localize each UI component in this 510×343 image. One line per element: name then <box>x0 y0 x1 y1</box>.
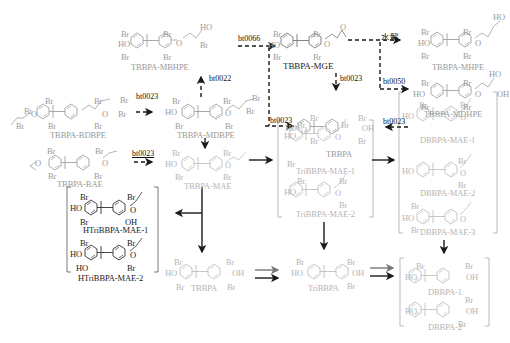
atom-o: O <box>460 215 466 224</box>
compound-label-tbbpa-mhpe: TBBPA-MHPE <box>432 63 484 72</box>
atom-ho: HO <box>200 23 212 32</box>
atom-br: Br <box>176 283 184 292</box>
atom-br: Br <box>200 41 208 50</box>
atom-br: Br <box>339 177 347 186</box>
atom-ho: HO <box>493 13 505 22</box>
atom-oh: OH <box>362 124 374 133</box>
atom-o: O <box>130 206 136 215</box>
compound-label-dbbpa-mae-3: DBBPA-MAE-3 <box>420 228 475 237</box>
atom-br: Br <box>310 114 318 123</box>
atom-br: Br <box>313 30 321 39</box>
enzyme-label-mdhpe-to-tbbpa: bt0023 <box>383 118 405 126</box>
atom-ho: HO <box>284 188 296 197</box>
atom-ho: HO <box>118 40 130 49</box>
atom-br: Br <box>421 79 429 88</box>
atom-br: Br <box>246 107 254 116</box>
pathway-diagram: TBBPA-MBHPE TBBPA-MGE TBBPA-MHPE TBBPA-M… <box>0 0 510 343</box>
atom-o: O <box>31 110 37 119</box>
atom-o: O <box>460 169 466 178</box>
atom-br: Br <box>273 53 281 62</box>
atom-br: Br <box>223 97 231 106</box>
atom-o: O <box>176 39 182 48</box>
atom-br: Br <box>297 177 305 186</box>
atom-br: Br <box>226 258 234 267</box>
atom-o: O <box>225 109 231 118</box>
enzyme-label-mdbpe-to-mge: bt0066 <box>238 35 260 43</box>
atom-o: O <box>324 40 330 49</box>
compound-label-tbbpa-bdbpe: TBBPA-BDBPE <box>50 131 106 140</box>
atom-o: O <box>130 251 136 260</box>
atom-oh: OH <box>466 307 478 316</box>
enzyme-label-bae-to-mae: bt0023 <box>132 150 154 158</box>
atom-o: O <box>102 110 108 119</box>
compound-label-tbbpa-mae: TBBPA-MAE <box>184 182 231 191</box>
atom-br: Br <box>223 173 231 182</box>
atom-ho: HO <box>291 269 303 278</box>
atom-ho: HO <box>402 167 414 176</box>
atom-ho: HO <box>268 41 280 50</box>
atom-br: Br <box>465 296 473 305</box>
enzyme-label-mge-to-mdhpe: bt0050 <box>383 78 405 86</box>
atom-br: Br <box>310 137 318 146</box>
atom-ho: HO <box>165 160 177 169</box>
atom-br: Br <box>313 53 321 62</box>
atom-br: Br <box>421 52 429 61</box>
atom-o: O <box>35 159 41 168</box>
atom-br: Br <box>172 97 180 106</box>
atom-o: O <box>340 23 346 32</box>
atom-br: Br <box>127 193 135 202</box>
atom-br: Br <box>411 226 419 235</box>
atom-ho: HO <box>70 204 82 213</box>
compound-label-dbbpa-mae-1: DBBPA-MAE-1 <box>420 136 475 145</box>
atom-br: Br <box>411 202 419 211</box>
atom-oh: OH <box>352 269 364 278</box>
atom-br: Br <box>297 121 305 130</box>
atom-br: Br <box>121 30 129 39</box>
atom-o: O <box>475 39 481 48</box>
atom-br: Br <box>94 97 102 106</box>
atom-br: Br <box>121 53 129 62</box>
atom-oh: OH <box>232 269 244 278</box>
atom-br: Br <box>48 172 56 181</box>
atom-br: Br <box>95 147 103 156</box>
atom-br: Br <box>163 53 171 62</box>
atom-br: Br <box>347 282 355 291</box>
atom-br: Br <box>94 172 102 181</box>
atom-br: Br <box>174 258 182 267</box>
atom-ho: HO <box>405 273 417 282</box>
compound-label-tribbpa-mae-2: TriBBPA-MAE-2 <box>296 210 355 219</box>
atom-br: Br <box>463 79 471 88</box>
atom-br: Br <box>458 181 466 190</box>
atom-o: O <box>460 113 466 122</box>
enzyme-label-hydrolysis: 水解 <box>381 33 399 42</box>
atom-ho: HO <box>413 90 425 99</box>
atom-o: O <box>475 90 481 99</box>
atom-ho: HO <box>70 250 82 259</box>
atom-br: Br <box>45 97 53 106</box>
compound-label-dbbpa-mae-2: DBBPA-MAE-2 <box>420 189 475 198</box>
atom-br: Br <box>296 258 304 267</box>
atom-br: Br <box>163 30 171 39</box>
atom-ho: HO <box>165 269 177 278</box>
atom-br: Br <box>458 320 466 329</box>
enzyme-label-mdbpe-to-mbhpe: bt0022 <box>209 75 231 83</box>
atom-br: Br <box>421 28 429 37</box>
atom-br: Br <box>16 122 24 131</box>
compound-label-tbbpa-mdhpe: TBBPA-MDHPE <box>424 110 482 119</box>
atom-ho: HO <box>402 214 414 223</box>
atom-br: Br <box>127 264 135 273</box>
compound-label-tribbpa: TriBBPA <box>308 284 339 293</box>
compound-label-tbbpa-mdbpe: TBBPA-MDBPE <box>177 131 235 140</box>
atom-br: Br <box>223 149 231 158</box>
atom-o: O <box>335 133 341 142</box>
atom-br: Br <box>227 283 235 292</box>
atom-br: Br <box>175 173 183 182</box>
atom-br: Br <box>172 149 180 158</box>
atom-br: Br <box>463 28 471 37</box>
atom-br: Br <box>339 201 347 210</box>
atom-ho: HO <box>284 132 296 141</box>
atom-br: Br <box>175 122 183 131</box>
atom-br: Br <box>419 101 427 110</box>
atom-o: O <box>102 159 108 168</box>
atom-oh: OH <box>125 218 137 227</box>
